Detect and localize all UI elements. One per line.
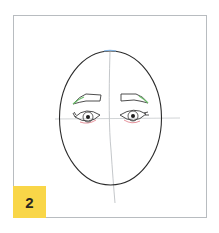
left-pupil bbox=[86, 115, 90, 119]
right-eyebrow bbox=[121, 94, 148, 103]
left-eyebrow bbox=[73, 94, 101, 104]
vertical-guide-line bbox=[109, 52, 115, 203]
step-number: 2 bbox=[25, 194, 33, 211]
step-badge: 2 bbox=[13, 186, 46, 218]
right-pupil bbox=[131, 114, 135, 118]
